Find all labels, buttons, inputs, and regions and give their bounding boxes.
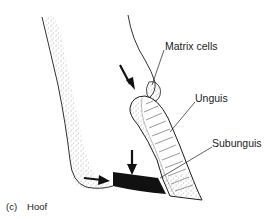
diagram-canvas <box>0 0 275 219</box>
leader-unguis <box>170 102 195 132</box>
figure-caption: (c)Hoof <box>6 202 47 212</box>
digit-skin-left <box>42 16 113 190</box>
hoof-diagram: Matrix cells Unguis Subunguis (c)Hoof <box>0 0 275 219</box>
caption-text: Hoof <box>27 201 47 212</box>
label-subunguis: Subunguis <box>212 138 262 149</box>
label-unguis: Unguis <box>195 93 228 104</box>
arrow-upper <box>120 65 135 90</box>
leader-matrix-cells <box>152 50 164 85</box>
panel-letter: (c) <box>6 201 17 212</box>
sole-black-region <box>113 172 166 194</box>
arrow-lower-vertical <box>127 150 137 175</box>
label-matrix-cells: Matrix cells <box>165 41 218 52</box>
